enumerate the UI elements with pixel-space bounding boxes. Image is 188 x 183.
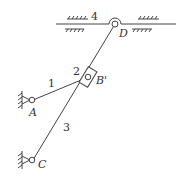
label-joint-d: D bbox=[118, 27, 128, 40]
label-link-3: 3 bbox=[63, 121, 70, 134]
joint-d-icon bbox=[112, 21, 118, 27]
link-1 bbox=[33, 78, 86, 100]
mechanism-diagram: 4 D 2 B' 1 A 3 C bbox=[0, 0, 188, 183]
hatch-bottom-left bbox=[65, 29, 84, 32]
fixed-pivot-c-icon bbox=[18, 151, 35, 169]
label-joint-c: C bbox=[38, 158, 47, 171]
label-link-2: 2 bbox=[73, 65, 80, 78]
hatch-bottom-right bbox=[132, 29, 152, 32]
label-link-4: 4 bbox=[91, 10, 98, 23]
label-link-1: 1 bbox=[48, 77, 55, 90]
label-joint-a: A bbox=[28, 106, 37, 119]
label-joint-b: B' bbox=[95, 74, 107, 87]
hatch-top-right bbox=[138, 16, 159, 19]
hatch-top-left bbox=[67, 16, 88, 19]
joint-b-icon bbox=[85, 74, 91, 80]
link-3 bbox=[33, 24, 115, 160]
